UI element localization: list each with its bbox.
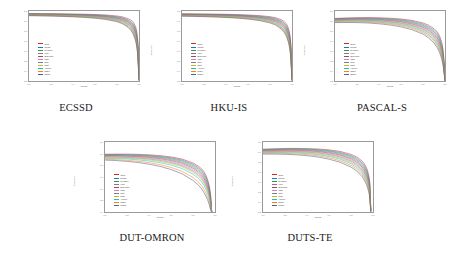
- legend-item[interactable]: DGRL: [114, 204, 129, 207]
- legend-color-swatch: [272, 184, 277, 185]
- x-tick-mark: [423, 81, 424, 82]
- y-tick-mark: [334, 51, 335, 52]
- x-tick-mark: [263, 212, 264, 213]
- x-tick-label: 0.8: [349, 214, 352, 216]
- axes-frame: Recall OursRFCNDHSNetUCFELD-DCLMDFDCLDSS…: [104, 141, 216, 213]
- axes-frame: Recall OursRFCNDHSNetUCFELD-DCLMDFDCLDSS…: [262, 141, 374, 213]
- legend-label: RFCN: [120, 177, 126, 179]
- legend-label: NLDF: [350, 70, 356, 72]
- x-axis-label: Recall: [234, 86, 241, 88]
- x-tick-label: 0.4: [224, 83, 227, 85]
- legend-color-swatch: [272, 174, 277, 175]
- y-tick-mark: [334, 41, 335, 42]
- legend-label: DGRL: [44, 73, 50, 75]
- x-tick-mark: [193, 212, 194, 213]
- x-tick-label: 0.0: [180, 83, 183, 85]
- y-tick-mark: [104, 142, 105, 143]
- x-tick-label: 0.8: [115, 83, 118, 85]
- legend-color-swatch: [114, 193, 119, 194]
- legend-label: RFCN: [350, 46, 356, 48]
- legend-color-swatch: [114, 178, 119, 179]
- legend: OursRFCNDHSNetUCFELD-DCLMDFDCLDSSAmuletN…: [271, 172, 289, 208]
- y-tick-mark: [181, 71, 182, 72]
- legend-color-swatch: [272, 205, 277, 206]
- panel-ecssd: Precision Recall OursRFCNDHSNetUCFELD-DC…: [6, 6, 146, 118]
- x-tick-label: 0.8: [191, 214, 194, 216]
- y-tick-mark: [104, 189, 105, 190]
- x-axis-label: Recall: [315, 217, 322, 219]
- legend-color-swatch: [38, 74, 43, 75]
- legend-item[interactable]: DGRL: [191, 73, 206, 76]
- legend-label: DSS: [278, 195, 282, 197]
- legend-item[interactable]: DGRL: [38, 73, 53, 76]
- x-tick-mark: [51, 81, 52, 82]
- y-tick-label: 0.5: [258, 191, 261, 193]
- legend-label: Ours: [278, 174, 283, 176]
- legend-color-swatch: [114, 174, 119, 175]
- x-tick-mark: [307, 212, 308, 213]
- legend-color-swatch: [114, 181, 119, 182]
- y-tick-mark: [104, 154, 105, 155]
- legend-color-swatch: [191, 65, 196, 66]
- legend-color-swatch: [38, 68, 43, 69]
- x-tick-mark: [127, 212, 128, 213]
- x-tick-label: 0.6: [169, 214, 172, 216]
- legend-color-swatch: [272, 181, 277, 182]
- legend-item[interactable]: DGRL: [344, 73, 359, 76]
- legend-label: DHSNet: [197, 49, 205, 51]
- legend: OursRFCNDHSNetUCFELD-DCLMDFDCLDSSAmuletN…: [343, 41, 361, 77]
- legend-color-swatch: [344, 56, 349, 57]
- y-tick-label: 0.7: [100, 176, 103, 178]
- y-tick-label: 1.0: [258, 141, 261, 143]
- x-tick-label: 1.0: [137, 83, 140, 85]
- y-tick-label: 0.7: [177, 40, 180, 42]
- legend-color-swatch: [344, 74, 349, 75]
- legend-label: UCF: [44, 52, 48, 54]
- y-tick-label: 0.7: [258, 171, 261, 173]
- legend: OursRFCNDHSNetUCFELD-DCLMDFDCLDSSAmuletN…: [113, 172, 131, 208]
- legend-color-swatch: [344, 59, 349, 60]
- y-tick-mark: [181, 11, 182, 12]
- y-tick-label: 0.8: [330, 30, 333, 32]
- plot-area-dut-omron: Precision Recall OursRFCNDHSNetUCFELD-DC…: [82, 137, 222, 225]
- legend-label: UCF: [278, 183, 282, 185]
- axes-frame: Recall OursRFCNDHSNetUCFELD-DCLMDFDCLDSS…: [181, 10, 293, 82]
- x-tick-label: 0.4: [377, 83, 380, 85]
- x-tick-mark: [445, 81, 446, 82]
- y-tick-label: 0.5: [177, 60, 180, 62]
- legend-color-swatch: [38, 62, 43, 63]
- legend-label: DSS: [44, 64, 48, 66]
- legend-color-swatch: [191, 56, 196, 57]
- legend-label: NLDF: [120, 201, 126, 203]
- y-tick-label: 0.4: [330, 70, 333, 72]
- y-tick-label: 0.8: [24, 30, 27, 32]
- legend-label: RFCN: [197, 46, 203, 48]
- legend-label: NLDF: [197, 70, 203, 72]
- legend-item[interactable]: DGRL: [272, 204, 287, 207]
- legend-color-swatch: [38, 43, 43, 44]
- legend-color-swatch: [272, 196, 277, 197]
- legend-label: DGRL: [278, 204, 284, 206]
- legend: OursRFCNDHSNetUCFELD-DCLMDFDCLDSSAmuletN…: [37, 41, 55, 77]
- x-tick-mark: [117, 81, 118, 82]
- panel-caption-hku-is: HKU-IS: [159, 102, 299, 113]
- legend-color-swatch: [191, 53, 196, 54]
- y-tick-mark: [28, 71, 29, 72]
- legend-color-swatch: [114, 199, 119, 200]
- legend-label: Amulet: [120, 198, 127, 200]
- legend-label: DSS: [197, 64, 201, 66]
- y-tick-label: 1.0: [24, 10, 27, 12]
- x-tick-label: 0.6: [246, 83, 249, 85]
- y-axis-label: Precision: [74, 176, 76, 186]
- legend-label: Amulet: [197, 67, 204, 69]
- y-tick-label: 0.5: [24, 60, 27, 62]
- legend-label: DHSNet: [278, 180, 286, 182]
- y-tick-label: 0.4: [177, 70, 180, 72]
- legend-label: MDF: [197, 58, 202, 60]
- x-tick-label: 0.6: [327, 214, 330, 216]
- legend-label: DHSNet: [44, 49, 52, 51]
- y-tick-label: 0.8: [177, 30, 180, 32]
- y-tick-label: 0.6: [258, 181, 261, 183]
- x-tick-mark: [401, 81, 402, 82]
- legend-label: Amulet: [350, 67, 357, 69]
